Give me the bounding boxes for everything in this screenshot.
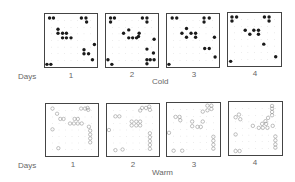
open-circle-marker bbox=[234, 133, 237, 136]
open-circle-marker bbox=[196, 125, 199, 128]
grid-tick bbox=[77, 27, 78, 28]
grid-tick bbox=[212, 20, 213, 21]
grid-tick bbox=[51, 53, 52, 54]
grid-tick bbox=[151, 20, 152, 21]
grid-tick bbox=[85, 117, 86, 118]
filled-dot-marker bbox=[189, 31, 192, 34]
filled-dot-marker bbox=[230, 19, 233, 22]
grid-tick bbox=[249, 115, 250, 116]
grid-tick bbox=[139, 130, 140, 131]
open-circle-marker bbox=[73, 117, 76, 120]
grid-tick bbox=[193, 53, 194, 54]
open-circle-marker bbox=[148, 147, 151, 150]
grid-tick bbox=[58, 40, 59, 41]
filled-dot-marker bbox=[185, 27, 188, 30]
open-circle-marker bbox=[148, 139, 151, 142]
grid-tick bbox=[235, 148, 236, 149]
grid-tick bbox=[146, 110, 147, 111]
grid-tick bbox=[64, 27, 65, 28]
grid-tick bbox=[132, 27, 133, 28]
grid-tick bbox=[145, 60, 146, 61]
open-circle-marker bbox=[89, 141, 92, 144]
grid-tick bbox=[193, 116, 194, 117]
grid-tick bbox=[212, 60, 213, 61]
days-label-cold: Days bbox=[18, 72, 36, 81]
grid-tick bbox=[262, 108, 263, 109]
open-circle-marker bbox=[148, 135, 151, 138]
grid-tick bbox=[193, 47, 194, 48]
grid-tick bbox=[248, 33, 249, 34]
grid-tick bbox=[146, 117, 147, 118]
grid-tick bbox=[132, 47, 133, 48]
filled-dot-marker bbox=[171, 16, 174, 19]
grid-tick bbox=[119, 20, 120, 21]
grid-tick bbox=[133, 136, 134, 137]
open-circle-marker bbox=[239, 118, 242, 121]
filled-dot-marker bbox=[185, 35, 188, 38]
filled-dot-marker bbox=[137, 31, 140, 34]
filled-dot-marker bbox=[213, 55, 216, 58]
filled-dot-marker bbox=[208, 16, 211, 19]
grid-tick bbox=[90, 60, 91, 61]
days-label-warm: Days bbox=[18, 161, 36, 170]
open-circle-marker bbox=[118, 115, 121, 118]
filled-dot-marker bbox=[145, 20, 148, 23]
grid-tick bbox=[241, 19, 242, 20]
grid-tick bbox=[267, 26, 268, 27]
open-circle-marker bbox=[148, 105, 151, 108]
grid-tick bbox=[261, 26, 262, 27]
grid-tick bbox=[180, 20, 181, 21]
filled-dot-marker bbox=[109, 20, 112, 23]
filled-dot-marker bbox=[152, 58, 155, 61]
grid-tick bbox=[180, 60, 181, 61]
warm-day-1-label: 1 bbox=[63, 160, 83, 169]
grid-tick bbox=[152, 130, 153, 131]
grid-tick bbox=[213, 116, 214, 117]
grid-tick bbox=[113, 123, 114, 124]
grid-tick bbox=[72, 130, 73, 131]
grid-tick bbox=[262, 135, 263, 136]
grid-tick bbox=[126, 130, 127, 131]
grid-tick bbox=[71, 53, 72, 54]
grid-tick bbox=[151, 53, 152, 54]
warm-day-2-label: 2 bbox=[123, 160, 143, 169]
filled-dot-marker bbox=[248, 32, 251, 35]
grid-tick bbox=[193, 109, 194, 110]
grid-tick bbox=[64, 40, 65, 41]
grid-tick bbox=[274, 52, 275, 53]
open-circle-marker bbox=[212, 135, 215, 138]
grid-tick bbox=[139, 143, 140, 144]
grid-tick bbox=[206, 27, 207, 28]
grid-tick bbox=[241, 26, 242, 27]
grid-tick bbox=[212, 40, 213, 41]
grid-tick bbox=[65, 136, 66, 137]
grid-tick bbox=[146, 143, 147, 144]
grid-tick bbox=[84, 47, 85, 48]
grid-tick bbox=[234, 52, 235, 53]
grid-tick bbox=[173, 60, 174, 61]
open-circle-marker bbox=[89, 129, 92, 132]
grid-tick bbox=[58, 20, 59, 21]
grid-tick bbox=[200, 109, 201, 110]
grid-tick bbox=[152, 123, 153, 124]
filled-dot-marker bbox=[202, 20, 205, 23]
grid-tick bbox=[152, 117, 153, 118]
grid-tick bbox=[249, 108, 250, 109]
grid-tick bbox=[234, 46, 235, 47]
grid-tick bbox=[90, 40, 91, 41]
grid-tick bbox=[241, 39, 242, 40]
open-circle-marker bbox=[212, 139, 215, 142]
grid-tick bbox=[112, 53, 113, 54]
grid-tick bbox=[173, 109, 174, 110]
cold-day-2-label: 2 bbox=[122, 70, 142, 79]
grid-tick bbox=[78, 143, 79, 144]
grid-tick bbox=[186, 20, 187, 21]
grid-tick bbox=[119, 34, 120, 35]
grid-tick bbox=[91, 117, 92, 118]
grid-tick bbox=[65, 117, 66, 118]
filled-dot-marker bbox=[257, 32, 260, 35]
filled-dot-marker bbox=[145, 58, 148, 61]
grid-tick bbox=[199, 20, 200, 21]
grid-tick bbox=[59, 143, 60, 144]
cold-day-1-panel bbox=[44, 13, 98, 68]
